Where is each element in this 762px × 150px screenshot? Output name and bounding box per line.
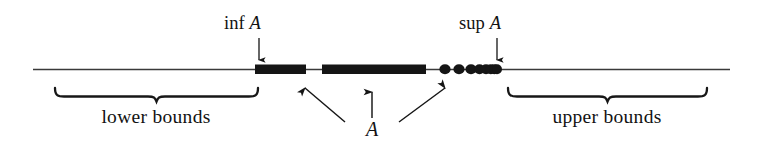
inf-label-prefix: inf xyxy=(224,13,245,33)
sup-a-label: supA xyxy=(459,14,501,33)
supremum-infimum-number-line-figure: infA supA lower bounds upper bounds A xyxy=(0,0,762,150)
number-line-diagram xyxy=(0,0,762,150)
set-point xyxy=(453,64,464,74)
set-pointer-right xyxy=(399,88,445,122)
set-point xyxy=(492,64,502,74)
upper-bounds-brace xyxy=(508,88,707,102)
set-pointer-left xyxy=(305,88,345,122)
sup-label-set: A xyxy=(485,13,501,33)
lower-bounds-label: lower bounds xyxy=(101,107,210,127)
inf-a-label: infA xyxy=(224,14,261,33)
set-point xyxy=(439,64,450,74)
inf-label-set: A xyxy=(245,13,261,33)
sup-label-prefix: sup xyxy=(459,13,485,33)
set-a-label: A xyxy=(366,119,378,139)
set-isolated-points xyxy=(439,64,502,74)
set-interval-1 xyxy=(255,65,306,75)
lower-bounds-brace xyxy=(55,88,258,102)
set-interval-2 xyxy=(322,65,426,75)
upper-bounds-label: upper bounds xyxy=(552,107,661,127)
